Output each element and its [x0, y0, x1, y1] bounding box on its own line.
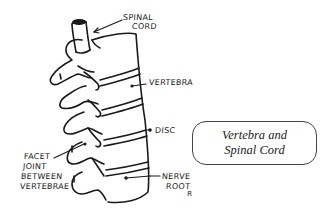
label-facet-line4: VERTEBRAE: [20, 182, 70, 191]
caption-line-2: Spinal Cord: [224, 143, 284, 158]
label-facet-line1: FACET: [24, 152, 51, 161]
label-facet-line2: JOINT: [23, 162, 47, 171]
label-nerve-root-line1: NERVE: [162, 172, 191, 181]
label-side-marker: R: [187, 190, 193, 199]
caption-box: Vertebra and Spinal Cord: [192, 121, 317, 165]
caption-line-1: Vertebra and: [222, 128, 287, 143]
spine-diagram: SPINAL CORD VERTEBRA DISC FACET JOINT BE…: [0, 0, 329, 224]
label-facet-line3: BETWEEN: [21, 172, 63, 181]
label-disc: DISC: [155, 126, 176, 135]
label-spinal-cord-line1: SPINAL: [123, 13, 154, 22]
label-vertebra: VERTEBRA: [149, 78, 194, 87]
label-spinal-cord-line2: CORD: [132, 22, 157, 31]
